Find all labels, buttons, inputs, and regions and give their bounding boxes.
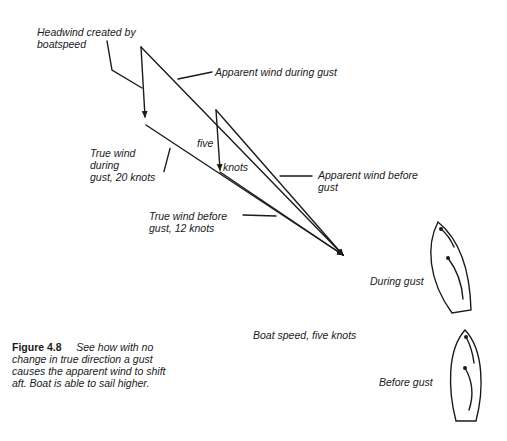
caption-line1: Figure 4.8 See how with no [12,341,212,353]
caption-text-2: change in true direction a gust [12,353,153,365]
headwind-label-line2: boatspeed [37,38,136,50]
true-during-leader-line [164,148,170,172]
true-during-line3: gust, 20 knots [90,171,155,183]
headwind-arrow [141,47,145,117]
true-during-gust-label: True wind during gust, 20 knots [90,147,155,183]
caption-text-1: See how with no [76,341,153,353]
five-label: five [197,137,213,149]
true-before-line2: gust, 12 knots [149,222,227,234]
true-before-gust-label: True wind before gust, 12 knots [149,210,227,234]
true-during-line2: during [90,159,155,171]
knots-label: knots [223,161,248,173]
boatspeed-five-knots-arrow [216,110,220,170]
figure-caption: Figure 4.8 See how with no change in tru… [12,341,212,389]
boat-before-gust-icon [451,330,482,421]
apparent-before-gust-label: Apparent wind before gust [318,169,418,193]
caption-text-3: causes the apparent wind to shift [12,365,166,377]
boat-during-gust-icon [431,222,471,313]
figure-number: Figure 4.8 [12,341,62,353]
headwind-label: Headwind created by boatspeed [37,26,136,50]
apparent-during-leader-line [178,72,212,79]
boat-speed-label: Boat speed, five knots [253,329,356,341]
apparent-during-gust-label: Apparent wind during gust [215,66,337,78]
apparent-before-line2: gust [318,181,418,193]
true-before-leader-line [243,215,276,216]
during-gust-label: During gust [370,275,424,287]
true-during-line1: True wind [90,147,155,159]
before-gust-label: Before gust [379,376,433,388]
caption-text-4: aft. Boat is able to sail higher. [12,377,149,389]
apparent-before-line1: Apparent wind before [318,169,418,181]
headwind-label-line1: Headwind created by [37,26,136,38]
true-before-line1: True wind before [149,210,227,222]
